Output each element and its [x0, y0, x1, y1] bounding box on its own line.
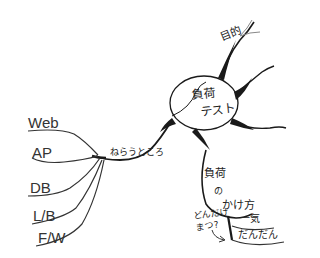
note-arrow — [212, 230, 224, 240]
target-child-lb: L/B — [33, 208, 56, 223]
load-method-line2: の — [214, 187, 223, 196]
load-method-line1: 負荷 — [204, 168, 226, 179]
load-method-child-ikki: 一気 — [240, 214, 260, 224]
central-node-line2: テスト — [199, 102, 236, 118]
hub-wedge-lower-right — [230, 118, 254, 130]
target-child-web: Web — [28, 115, 59, 130]
target-child-db: DB — [30, 180, 51, 195]
load-method-child-dandan: だんだん — [238, 230, 278, 240]
hub-wedge-bottom — [192, 128, 210, 150]
target-child-ap: AP — [32, 145, 52, 160]
target-label: ねらうところ — [110, 148, 164, 157]
target-child-fw: F/W — [38, 230, 66, 245]
central-node-line1: 負荷 — [191, 87, 216, 101]
load-method-stem — [228, 216, 232, 240]
child-dandan-line — [232, 240, 284, 245]
branch-empty-upper — [236, 66, 274, 94]
hub-wedge-right — [234, 78, 252, 100]
hub-wedge-top — [218, 40, 236, 80]
